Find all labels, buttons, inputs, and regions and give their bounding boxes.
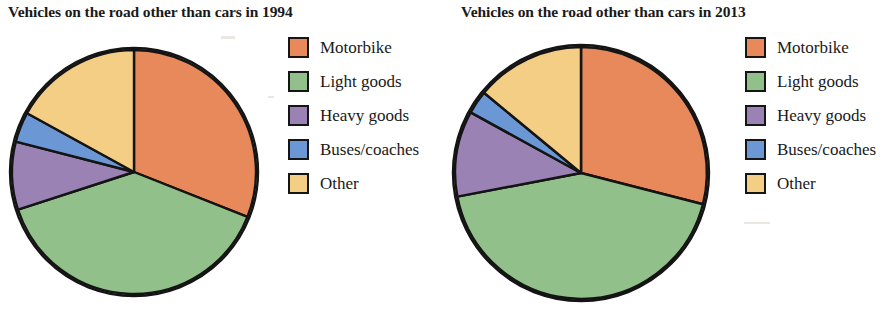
legend-swatch-light-goods-icon xyxy=(288,71,309,92)
page-title: Vehicles on the road other than cars in … xyxy=(8,3,293,21)
legend-item-buses-coaches[interactable]: Buses/coaches xyxy=(288,132,419,166)
legend-swatch-motorbike-icon xyxy=(288,37,309,58)
legend-label-other: Other xyxy=(320,175,359,192)
legend-swatch-light-goods-icon xyxy=(745,71,766,92)
legend-item-other[interactable]: Other xyxy=(288,166,419,200)
legend-1994: Motorbike Light goods Heavy goods Buses/… xyxy=(288,30,419,200)
legend-item-light-goods[interactable]: Light goods xyxy=(745,64,876,98)
legend-item-buses-coaches[interactable]: Buses/coaches xyxy=(745,132,876,166)
pie-chart-1994 xyxy=(9,47,259,297)
legend-label-other: Other xyxy=(777,175,816,192)
legend-label-buses-coaches: Buses/coaches xyxy=(777,141,876,158)
legend-swatch-heavy-goods-icon xyxy=(288,105,309,126)
legend-2013: Motorbike Light goods Heavy goods Buses/… xyxy=(745,30,876,200)
pie-svg-2013 xyxy=(452,44,710,302)
scan-speck xyxy=(221,36,235,39)
legend-swatch-buses-coaches-icon xyxy=(288,139,309,160)
legend-item-heavy-goods[interactable]: Heavy goods xyxy=(745,98,876,132)
legend-label-motorbike: Motorbike xyxy=(777,39,849,56)
legend-label-light-goods: Light goods xyxy=(777,73,859,90)
pie-chart-figure: Vehicles on the road other than cars in … xyxy=(0,0,896,315)
pie-chart-2013 xyxy=(452,44,710,302)
legend-label-buses-coaches: Buses/coaches xyxy=(320,141,419,158)
legend-label-motorbike: Motorbike xyxy=(320,39,392,56)
legend-swatch-other-icon xyxy=(745,173,766,194)
legend-swatch-buses-coaches-icon xyxy=(745,139,766,160)
legend-swatch-heavy-goods-icon xyxy=(745,105,766,126)
page-title-secondary: Vehicles on the road other than cars in … xyxy=(461,3,746,21)
legend-item-motorbike[interactable]: Motorbike xyxy=(288,30,419,64)
pie-slices-2013 xyxy=(455,47,707,299)
pie-svg-1994 xyxy=(9,47,259,297)
legend-label-heavy-goods: Heavy goods xyxy=(777,107,866,124)
scan-speck xyxy=(744,222,770,224)
legend-swatch-other-icon xyxy=(288,173,309,194)
chart-panel-2013: Vehicles on the road other than cars in … xyxy=(448,0,896,315)
pie-slices-1994 xyxy=(12,50,256,294)
legend-item-heavy-goods[interactable]: Heavy goods xyxy=(288,98,419,132)
legend-item-motorbike[interactable]: Motorbike xyxy=(745,30,876,64)
scan-speck xyxy=(268,96,274,98)
legend-label-light-goods: Light goods xyxy=(320,73,402,90)
legend-swatch-motorbike-icon xyxy=(745,37,766,58)
legend-item-light-goods[interactable]: Light goods xyxy=(288,64,419,98)
legend-label-heavy-goods: Heavy goods xyxy=(320,107,409,124)
legend-item-other[interactable]: Other xyxy=(745,166,876,200)
chart-panel-1994: Vehicles on the road other than cars in … xyxy=(0,0,448,315)
